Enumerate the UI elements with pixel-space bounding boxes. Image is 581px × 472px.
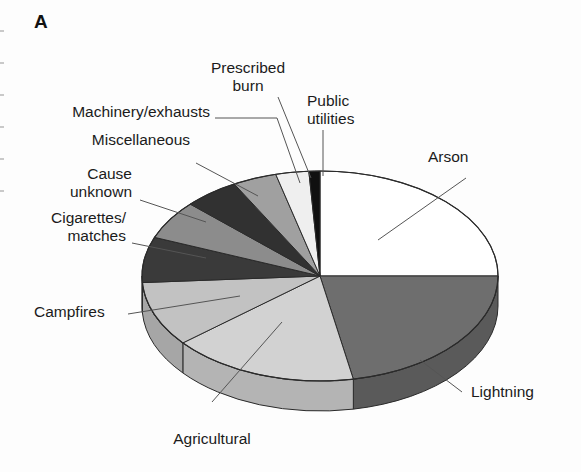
label-prescribed-line2: burn: [198, 77, 298, 95]
figure-panel: A Arson Lightning Agricultural Campfires…: [0, 0, 581, 472]
label-miscellaneous: Miscellaneous: [0, 131, 190, 149]
label-campfires: Campfires: [34, 303, 105, 321]
label-utilities-line1: Public: [307, 92, 349, 110]
label-utilities-line2: utilities: [307, 110, 354, 128]
label-cause-line1: Cause: [0, 165, 132, 183]
pie-slice: [320, 171, 498, 276]
label-prescribed-line1: Prescribed: [198, 59, 298, 77]
label-cigarettes-line1: Cigarettes/: [0, 209, 126, 227]
label-machinery: Machinery/exhausts: [0, 103, 210, 121]
label-arson: Arson: [428, 148, 469, 166]
label-agricultural: Agricultural: [152, 430, 272, 448]
label-lightning: Lightning: [471, 383, 534, 401]
pie-top-faces: [142, 171, 498, 381]
label-cigarettes-line2: matches: [0, 227, 126, 245]
label-cause-line2: unknown: [0, 183, 132, 201]
